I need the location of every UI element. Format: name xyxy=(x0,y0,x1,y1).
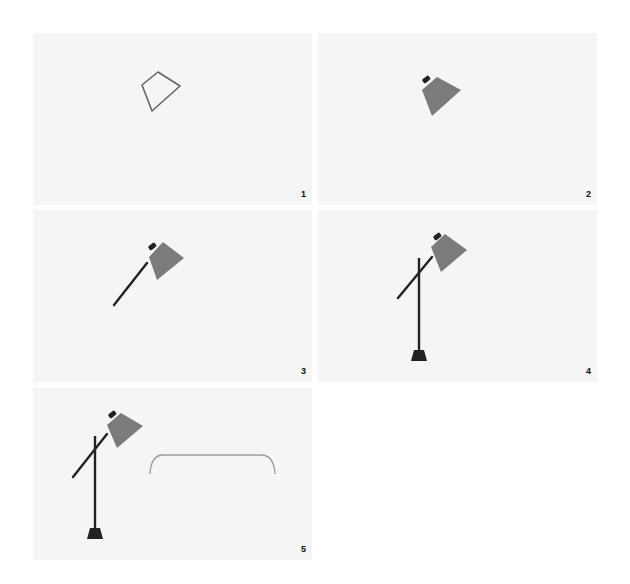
lampshade-icon xyxy=(318,33,597,205)
step-panel-2: 2 xyxy=(318,33,597,205)
step-number: 3 xyxy=(301,366,306,376)
step-number: 2 xyxy=(586,189,591,199)
lamp-with-pole-icon xyxy=(318,210,597,382)
lampshade-outline-icon xyxy=(33,33,312,205)
step-number: 4 xyxy=(586,366,591,376)
step-panel-1: 1 xyxy=(33,33,312,205)
step-panel-4: 4 xyxy=(318,210,597,382)
lamp-with-table-icon xyxy=(33,388,312,560)
step-number: 1 xyxy=(301,189,306,199)
step-panel-5: 5 xyxy=(33,388,312,560)
step-number: 5 xyxy=(301,544,306,554)
lampshade-with-arm-icon xyxy=(33,210,312,382)
step-panel-3: 3 xyxy=(33,210,312,382)
